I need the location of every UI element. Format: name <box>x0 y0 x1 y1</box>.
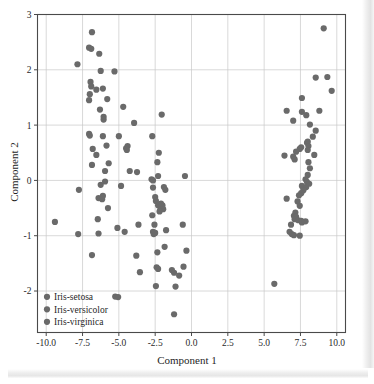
scatter-point <box>172 284 178 290</box>
legend-marker <box>44 319 50 325</box>
x-tick-label: -5.0 <box>111 338 126 348</box>
scatter-point <box>104 96 110 102</box>
scatter-point <box>291 232 297 238</box>
scatter-point <box>284 108 290 114</box>
scatter-point <box>329 88 335 94</box>
scatter-point <box>183 248 189 254</box>
x-tick-label: 2.5 <box>222 338 234 348</box>
scatter-point <box>159 112 165 118</box>
scatter-point <box>118 183 124 189</box>
scatter-point <box>89 252 95 258</box>
scatter-point <box>74 61 80 67</box>
scatter-point <box>299 95 305 101</box>
scatter-point <box>153 283 159 289</box>
scatter-point <box>290 118 296 124</box>
y-tick-label: 2 <box>27 65 32 75</box>
scatter-point <box>127 168 133 174</box>
scatter-point <box>154 159 160 165</box>
scatter-point <box>284 196 290 202</box>
scatter-point <box>156 150 162 156</box>
scatter-point <box>180 222 186 228</box>
scatter-point <box>271 281 277 287</box>
scatter-point <box>120 104 126 110</box>
x-tick-label: -10.0 <box>36 338 56 348</box>
scatter-point <box>99 196 105 202</box>
scatter-point <box>114 225 120 231</box>
scatter-point <box>151 222 157 228</box>
scatter-point <box>162 244 168 250</box>
legend-label: Iris-virginica <box>54 317 104 327</box>
scatter-point <box>116 133 122 139</box>
scatter-point <box>150 177 156 183</box>
scatter-point <box>101 116 107 122</box>
grid-lines <box>38 15 346 333</box>
scatter-point <box>180 264 186 270</box>
scatter-point <box>103 142 109 148</box>
scatter-point <box>303 112 309 118</box>
scatter-point <box>98 68 104 74</box>
scatter-point <box>96 51 102 57</box>
y-tick-labels: 3210-1-2 <box>24 10 32 297</box>
scatter-point <box>162 187 168 193</box>
scatter-point <box>154 249 160 255</box>
x-tick-label: -2.5 <box>148 338 163 348</box>
scatter-point <box>155 266 161 272</box>
y-tick-label: 3 <box>27 10 32 20</box>
legend-label: Iris-setosa <box>54 292 94 302</box>
scatter-point <box>297 233 303 239</box>
scatter-point <box>305 159 311 165</box>
scatter-point <box>288 222 294 228</box>
y-tick-label: -1 <box>24 231 32 241</box>
x-tick-label: 7.5 <box>295 338 307 348</box>
scatter-point <box>296 192 302 198</box>
scatter-point <box>95 216 101 222</box>
scatter-point <box>105 205 111 211</box>
scatter-point <box>89 29 95 35</box>
x-tick-label: -7.5 <box>75 338 90 348</box>
scatter-point <box>87 133 93 139</box>
scatter-point <box>292 156 298 162</box>
legend-marker <box>44 306 50 312</box>
scatter-point <box>89 162 95 168</box>
scatter-point <box>102 178 108 184</box>
scatter-point <box>155 173 161 179</box>
y-tick-label: -2 <box>24 286 32 296</box>
scatter-point <box>281 152 287 158</box>
data-points <box>52 25 335 317</box>
y-tick-label: 1 <box>27 121 32 131</box>
scatter-point <box>97 107 103 113</box>
scatter-point <box>106 160 112 166</box>
scatter-point <box>115 294 121 300</box>
scatter-point <box>135 222 141 228</box>
legend: Iris-setosaIris-versicolorIris-virginica <box>44 292 109 327</box>
legend-label: Iris-versicolor <box>54 305 109 315</box>
scatter-point <box>171 311 177 317</box>
scatter-point <box>95 230 101 236</box>
scatter-point <box>75 231 81 237</box>
x-tick-label: 0.0 <box>186 338 198 348</box>
scatter-point <box>176 272 182 278</box>
scatter-point <box>86 97 92 103</box>
scatter-point <box>131 120 137 126</box>
scatter-point <box>111 68 117 74</box>
x-tick-labels: -10.0-7.5-5.0-2.50.02.55.07.510.0 <box>36 338 345 348</box>
scatter-point <box>156 208 162 214</box>
scatter-point <box>313 74 319 80</box>
scatter-point <box>100 86 106 92</box>
scatter-point <box>311 152 317 158</box>
scatter-point <box>102 168 108 174</box>
scatter-point <box>149 133 155 139</box>
scatter-point <box>321 25 327 31</box>
x-axis-title: Component 1 <box>0 354 374 366</box>
scatter-point <box>137 269 143 275</box>
scatter-point <box>87 91 93 97</box>
scatter-point <box>124 147 130 153</box>
scatter-point <box>324 74 330 80</box>
scatter-point <box>88 46 94 52</box>
legend-marker <box>44 294 50 300</box>
x-tick-label: 10.0 <box>328 338 345 348</box>
x-tick-label: 5.0 <box>258 338 270 348</box>
y-axis-title: Component 2 <box>8 112 20 232</box>
scatter-plot: -10.0-7.5-5.0-2.50.02.55.07.510.0 3210-1… <box>0 0 374 384</box>
y-tick-label: 0 <box>27 176 32 186</box>
